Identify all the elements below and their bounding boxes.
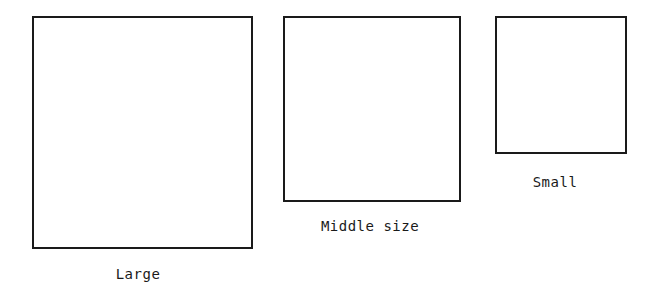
small-square [495, 16, 627, 154]
middle-square [283, 16, 461, 202]
middle-label: Middle size [321, 218, 419, 234]
small-label: Small [533, 174, 578, 190]
large-square [32, 16, 253, 249]
large-label: Large [116, 266, 161, 282]
